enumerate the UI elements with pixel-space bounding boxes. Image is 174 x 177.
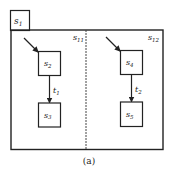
state-s5: s5 (121, 102, 143, 127)
state-s3: s3 (39, 103, 61, 127)
state-s2: s2 (39, 52, 61, 76)
state-s1-tab: s1 (11, 11, 30, 31)
state-s4: s4 (121, 51, 143, 75)
region-s11-label: s11 (73, 33, 84, 43)
statechart-diagram: s1 s11 s2 t1 s3 s12 s4 t2 s5 (0, 0, 174, 177)
region-s12-label: s12 (148, 33, 160, 43)
initial-arrow-s11 (24, 38, 38, 52)
region-s11: s11 s2 t1 s3 (24, 33, 84, 127)
transition-t1-label: t1 (53, 86, 60, 96)
initial-arrow-s12 (106, 37, 120, 51)
transition-t2-label: t2 (135, 85, 142, 95)
figure-caption: (a) (83, 156, 95, 166)
region-s12: s12 s4 t2 s5 (106, 33, 160, 127)
